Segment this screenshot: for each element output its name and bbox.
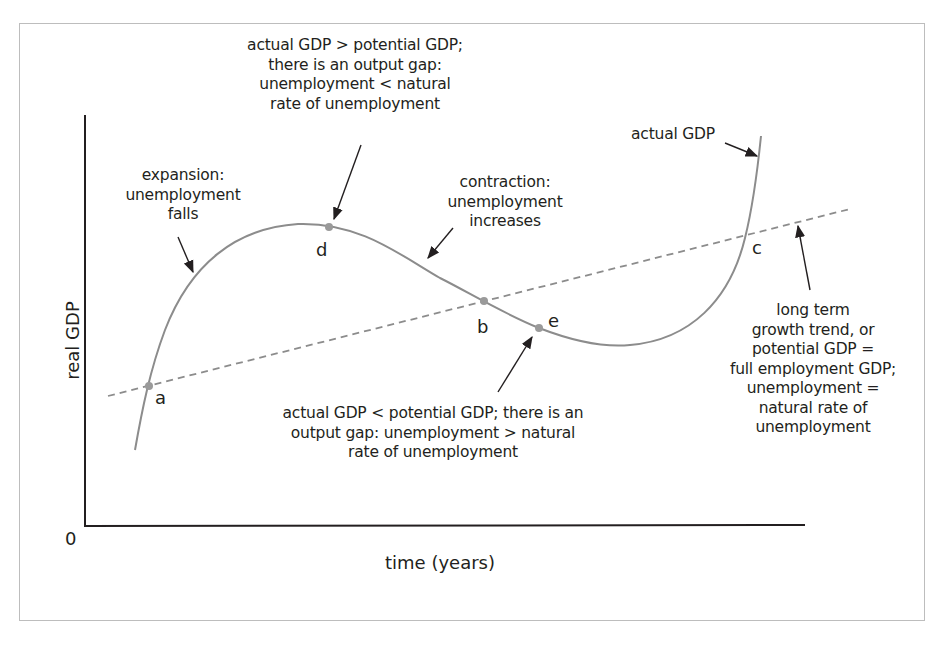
- annotation-line: rate of unemployment: [268, 443, 598, 463]
- arrow-actual-gdp: [725, 143, 757, 156]
- point-a-dot: [145, 382, 153, 390]
- annotation-line: contraction:: [430, 173, 580, 193]
- annotation-line: long term: [728, 301, 898, 321]
- annotation-line: unemployment: [728, 418, 898, 438]
- y-axis-label: real GDP: [62, 291, 83, 391]
- annotation-line: unemployment: [98, 186, 268, 206]
- annotation-contraction: contraction: unemployment increases: [430, 173, 580, 232]
- annotation-long-term-trend: long term growth trend, or potential GDP…: [728, 301, 898, 438]
- x-axis-label: time (years): [340, 552, 540, 573]
- arrow-expansion: [178, 237, 193, 272]
- point-d-label: d: [316, 241, 327, 259]
- annotation-line: unemployment: [430, 193, 580, 213]
- annotation-line: unemployment =: [728, 379, 898, 399]
- annotation-line: there is an output gap:: [240, 56, 470, 76]
- point-e-dot: [535, 324, 543, 332]
- arrow-to-e: [498, 337, 532, 392]
- annotation-line: expansion:: [98, 166, 268, 186]
- point-d-dot: [325, 223, 333, 231]
- annotation-line: potential GDP =: [728, 340, 898, 360]
- arrow-contraction: [428, 228, 453, 258]
- annotation-line: actual GDP > potential GDP;: [240, 36, 470, 56]
- annotation-line: increases: [430, 212, 580, 232]
- annotation-line: full employment GDP;: [728, 360, 898, 380]
- point-b-label: b: [477, 318, 488, 336]
- annotation-line: unemployment < natural: [240, 75, 470, 95]
- annotation-output-gap-above: actual GDP > potential GDP; there is an …: [240, 36, 470, 114]
- annotation-actual-gdp: actual GDP: [618, 125, 728, 145]
- annotation-line: output gap: unemployment > natural: [268, 424, 598, 444]
- x-axis: [84, 525, 805, 526]
- annotation-line: actual GDP < potential GDP; there is an: [268, 404, 598, 424]
- point-a-label: a: [155, 389, 166, 407]
- point-c-label: c: [752, 239, 762, 257]
- annotation-output-gap-below: actual GDP < potential GDP; there is an …: [268, 404, 598, 463]
- arrow-trend: [798, 226, 810, 290]
- point-b-dot: [480, 297, 488, 305]
- origin-label: 0: [65, 528, 76, 549]
- point-e-label: e: [548, 312, 559, 330]
- annotation-line: rate of unemployment: [240, 95, 470, 115]
- annotation-expansion: expansion: unemployment falls: [98, 166, 268, 225]
- intersection-points: [145, 223, 543, 390]
- annotation-line: falls: [98, 205, 268, 225]
- annotation-line: growth trend, or: [728, 321, 898, 341]
- arrow-to-d: [334, 145, 361, 219]
- annotation-line: natural rate of: [728, 399, 898, 419]
